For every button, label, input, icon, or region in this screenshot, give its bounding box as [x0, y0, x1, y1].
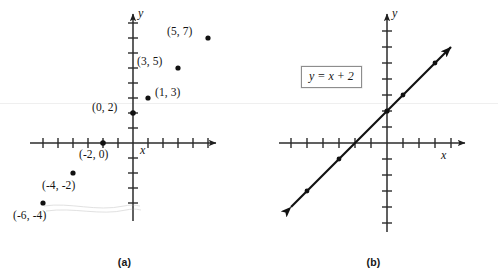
panel-b-caption: (b) — [249, 256, 498, 268]
line-point — [337, 157, 342, 162]
panel-b-y-axis-label: y — [392, 6, 397, 21]
equation-label-box: y = x + 2 — [301, 66, 362, 88]
panel-b-x-axis-label: x — [441, 148, 446, 163]
line-point — [305, 189, 310, 194]
data-point — [70, 170, 75, 175]
point-label-neg4-neg2: (-4, -2) — [42, 179, 75, 191]
data-point — [175, 65, 180, 70]
point-label-1-3: (1, 3) — [155, 86, 181, 98]
data-point — [205, 35, 210, 40]
line-point — [401, 93, 406, 98]
figure-panel-b: x y y = x + 2 (b) — [249, 0, 498, 280]
figure-panel-a: x y (5, 7) (3, 5) (1, 3) (0, 2) (-2, 0) … — [0, 0, 249, 280]
panel-a-x-axis-label: x — [140, 143, 145, 158]
data-point — [40, 200, 45, 205]
panel-a-axes-svg — [0, 0, 249, 280]
line-point — [384, 108, 389, 113]
panel-b-axes-svg — [249, 0, 498, 280]
point-label-neg6-neg4: (-6, -4) — [13, 209, 46, 221]
point-label-neg2-0: (-2, 0) — [79, 148, 108, 160]
panel-a-y-axis-label: y — [138, 6, 143, 21]
point-label-3-5: (3, 5) — [137, 55, 163, 67]
data-point — [145, 95, 150, 100]
point-label-5-7: (5, 7) — [167, 25, 193, 37]
data-point — [130, 110, 136, 116]
data-point — [100, 140, 106, 146]
line-point — [433, 61, 438, 66]
point-label-0-2: (0, 2) — [92, 101, 118, 113]
panel-a-caption: (a) — [0, 256, 249, 268]
